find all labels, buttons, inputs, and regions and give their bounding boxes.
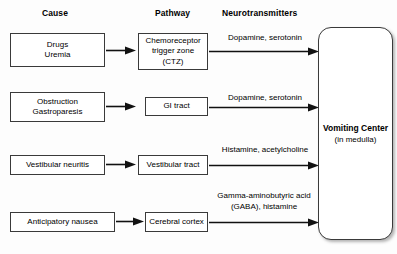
pathway-box-row-1: Chemoreceptor trigger zone (CTZ) [138,33,208,70]
column-header-pathway: Pathway [155,8,190,18]
pathway-box-row-3: Vestibular tract [138,155,208,175]
neurotransmitter-label-row-2: Dopamine, serotonin [212,93,318,104]
arrow-pathway-to-center-row-2 [209,103,320,112]
cause-box-row-1: Drugs Uremia [10,33,105,67]
arrow-pathway-to-center-row-4 [209,218,320,227]
arrow-cause-to-pathway-row-3 [106,160,137,169]
cause-box-row-1-line-1: Drugs [47,40,68,51]
cause-box-row-2: Obstruction Gastroparesis [10,92,105,122]
arrow-pathway-to-center-row-1 [209,47,320,56]
cause-box-row-4: Anticipatory nausea [10,212,115,232]
vomiting-center-title: Vomiting Center [323,123,388,134]
vomiting-center-box: Vomiting Center (in medulla) [318,27,393,240]
neurotransmitter-label-row-3-line-1: Histamine, acetylcholine [210,145,320,156]
neurotransmitter-label-row-4-line-1: Gamma-aminobutyric acid [203,191,325,202]
cause-box-row-4-line-1: Anticipatory nausea [27,217,97,228]
cause-box-row-2-line-1: Obstruction [37,97,78,108]
pathway-box-row-2-line-1: GI tract [163,101,189,112]
neurotransmitter-label-row-4: Gamma-aminobutyric acid (GABA), histamin… [203,191,325,212]
pathway-box-row-3-line-1: Vestibular tract [147,160,200,171]
column-header-cause: Cause [42,8,68,18]
cause-box-row-3: Vestibular neuritis [10,155,105,175]
cause-box-row-3-line-1: Vestibular neuritis [26,160,89,171]
neurotransmitter-label-row-2-line-1: Dopamine, serotonin [212,93,318,104]
pathway-box-row-4-line-1: Cerebral cortex [149,217,204,228]
neurotransmitter-label-row-4-line-2: (GABA), histamine [203,202,325,213]
cause-box-row-1-line-2: Uremia [45,50,71,61]
neurotransmitter-label-row-1: Dopamine, serotonin [212,33,318,44]
pathway-box-row-1-line-2: trigger zone [152,46,194,57]
pathway-box-row-1-line-1: Chemoreceptor [145,36,200,47]
arrow-pathway-to-center-row-3 [209,161,320,170]
column-header-neurotransmitters: Neurotransmitters [222,8,297,18]
pathway-box-row-4: Cerebral cortex [145,212,208,232]
cause-box-row-2-line-2: Gastroparesis [33,107,83,118]
vomiting-pathway-diagram: Cause Pathway Neurotransmitters Drugs Ur… [0,0,397,254]
pathway-box-row-1-line-3: (CTZ) [163,57,184,68]
neurotransmitter-label-row-3: Histamine, acetylcholine [210,145,320,156]
arrow-cause-to-pathway-row-1 [106,46,137,55]
pathway-box-row-2: GI tract [145,97,208,116]
arrow-cause-to-pathway-row-4 [116,217,145,226]
neurotransmitter-label-row-1-line-1: Dopamine, serotonin [212,33,318,44]
arrow-cause-to-pathway-row-2 [106,102,137,111]
vomiting-center-subtitle: (in medulla) [335,134,377,145]
